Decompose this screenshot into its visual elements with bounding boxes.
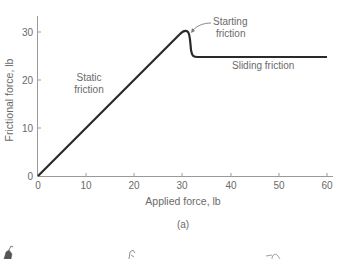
x-tick-0: 0 (35, 180, 41, 191)
y-axis-label: Frictional force, lb (3, 58, 15, 141)
svg-text:Static: Static (76, 72, 101, 83)
illustration-fragment-right (266, 254, 280, 259)
starting-friction-label: Starting friction (213, 16, 247, 39)
svg-text:Starting: Starting (213, 16, 247, 27)
x-tick-30: 30 (176, 180, 188, 191)
y-tick-10: 10 (22, 123, 34, 134)
figure-caption: (a) (177, 219, 189, 230)
illustration-fragment-middle (129, 250, 135, 259)
x-tick-labels: 0 10 20 30 40 50 60 (35, 180, 333, 191)
static-friction-label: Static friction (74, 72, 103, 95)
friction-curve (38, 31, 327, 176)
starting-friction-arrow (193, 23, 211, 30)
x-tick-40: 40 (225, 180, 237, 191)
x-tick-60: 60 (321, 180, 333, 191)
sliding-friction-label: Sliding friction (232, 60, 294, 71)
x-tick-20: 20 (128, 180, 140, 191)
svg-text:friction: friction (216, 28, 245, 39)
illustration-fragment-left (4, 246, 13, 259)
y-ticks (38, 32, 42, 128)
y-tick-labels: 0 10 20 30 (22, 27, 34, 182)
svg-text:friction: friction (74, 84, 103, 95)
x-tick-10: 10 (80, 180, 92, 191)
x-tick-50: 50 (273, 180, 285, 191)
y-tick-30: 30 (22, 27, 34, 38)
y-tick-0: 0 (27, 171, 33, 182)
x-axis-label: Applied force, lb (145, 195, 220, 207)
x-ticks (86, 173, 327, 177)
friction-chart: 0 10 20 30 0 10 20 30 40 50 60 Applied f… (0, 0, 341, 259)
y-tick-20: 20 (22, 75, 34, 86)
